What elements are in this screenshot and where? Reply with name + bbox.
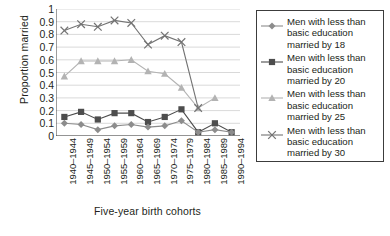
y-tick-label: 1 [28,4,54,14]
legend-triangle-icon [260,90,284,102]
x-tick-label: 1945–1949 [85,138,95,185]
data-point-marker [61,114,67,120]
x-axis-tick-labels: 1940–19441945–19491950–19541955–19591960… [56,138,240,200]
data-point-marker [212,120,218,126]
x-tick-label: 1955–1959 [119,138,129,185]
y-tick-label: 0.8 [28,29,54,39]
x-tick-label: 1950–1954 [102,138,112,185]
x-tick-label: 1940–1944 [68,138,78,185]
legend-label: Men with less than basic education marri… [287,52,366,86]
y-tick-label: 0.3 [28,93,54,103]
y-tick-label: 0.4 [28,80,54,90]
data-point-marker [161,32,169,40]
data-point-marker [94,126,101,133]
data-point-marker [144,68,151,75]
y-tick-label: 0.6 [28,55,54,65]
data-point-marker [95,116,101,122]
chart-legend: Men with less than basic education marri… [256,10,384,162]
y-tick-label: 0.7 [28,42,54,52]
x-tick-label: 1980–1984 [202,138,212,185]
series-line [64,20,198,108]
y-tick-label: 0.5 [28,68,54,78]
legend-item: Men with less than basic education marri… [260,16,380,50]
data-point-marker [178,38,186,46]
y-tick-label: 0 [28,131,54,141]
data-point-marker [128,121,135,128]
data-point-marker [269,59,275,65]
y-tick-label: 0.2 [28,106,54,116]
data-point-marker [269,23,276,30]
x-tick-label: 1970–1974 [169,138,179,185]
data-point-marker [178,106,184,112]
x-axis-title: Five-year birth cohorts [40,205,255,217]
data-point-marker [162,114,168,120]
y-tick-label: 0.1 [28,118,54,128]
legend-item: Men with less than basic education marri… [260,52,380,86]
plot-area [56,9,240,136]
data-point-marker [128,110,134,116]
legend-item: Men with less than basic education marri… [260,88,380,122]
data-point-marker [61,27,69,35]
legend-square-icon [260,54,284,66]
data-point-marker [211,126,218,133]
data-point-marker [78,121,85,128]
data-point-marker [111,110,117,116]
x-tick-label: 1975–1979 [185,138,195,185]
legend-diamond-icon [260,18,284,30]
x-tick-label: 1990–1994 [236,138,246,185]
data-point-marker [78,109,84,115]
x-tick-label: 1960–1964 [135,138,145,185]
legend-label: Men with less than basic education marri… [287,88,366,122]
x-tick-label: 1985–1989 [219,138,229,185]
legend-cross-icon [260,127,284,139]
y-tick-label: 0.9 [28,17,54,27]
series-triangle [61,56,219,111]
data-point-marker [61,120,68,127]
legend-label: Men with less than basic education marri… [287,125,366,159]
plot-svg [56,9,240,136]
chart-figure: Proportion married 00.10.20.30.40.50.60.… [0,0,390,236]
y-axis-tick-labels: 00.10.20.30.40.50.60.70.80.91 [22,9,54,136]
x-tick-label: 1965–1969 [152,138,162,185]
legend-label: Men with less than basic education marri… [287,16,366,50]
legend-item: Men with less than basic education marri… [260,125,380,159]
